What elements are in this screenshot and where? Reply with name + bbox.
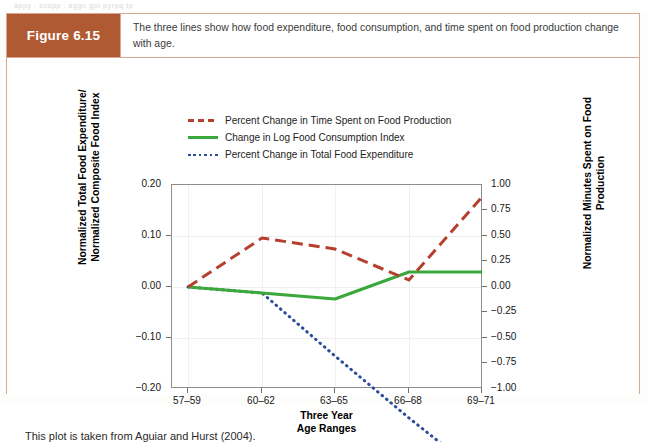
- scan-artifact-text: appy . suspp . aggn gpt pyrpq tp: [0, 0, 648, 11]
- figure-card: Figure 6.15 The three lines show how foo…: [6, 13, 640, 394]
- xtick-label-2: 63–65: [302, 395, 366, 406]
- y-axis-title-right-line2: Production: [594, 68, 607, 298]
- legend-swatch-solid-green-icon: [188, 132, 218, 143]
- figure-caption: The three lines show how food expenditur…: [120, 14, 639, 57]
- xtick-label-3: 66–68: [376, 395, 440, 406]
- ytick-label-right-0: 1.00: [491, 178, 531, 189]
- y-axis-title-left: Normalized Total Food Expenditure/ Norma…: [76, 57, 102, 297]
- ytick-label-left-3: −0.10: [115, 331, 161, 342]
- y-axis-title-right: Normalized Minutes Spent on Food Product…: [581, 68, 607, 298]
- ytick-label-left-0: 0.20: [115, 178, 161, 189]
- legend-label-consumption: Change in Log Food Consumption Index: [225, 132, 405, 143]
- ytick-label-left-2: 0.00: [115, 280, 161, 291]
- y-axis-title-right-line1: Normalized Minutes Spent on Food: [581, 68, 594, 298]
- legend-item-time-spent: Percent Change in Time Spent on Food Pro…: [188, 113, 451, 128]
- series-lines: [172, 185, 483, 389]
- chart-container: Percent Change in Time Spent on Food Pro…: [7, 58, 639, 394]
- figure-header: Figure 6.15 The three lines show how foo…: [7, 14, 639, 58]
- legend-swatch-dotted-blue-icon: [188, 149, 218, 160]
- ytick-label-left-1: 0.10: [115, 229, 161, 240]
- series-line-consumption: [188, 272, 482, 299]
- ytick-label-right-8: −1.00: [491, 382, 531, 393]
- chart-legend: Percent Change in Time Spent on Food Pro…: [188, 113, 451, 164]
- legend-label-expenditure: Percent Change in Total Food Expenditure: [225, 149, 413, 160]
- xtick-label-4: 69–71: [449, 395, 513, 406]
- ytick-label-right-6: −0.50: [491, 331, 531, 342]
- y-axis-title-left-line2: Normalized Composite Food Index: [89, 57, 102, 297]
- legend-item-expenditure: Percent Change in Total Food Expenditure: [188, 147, 451, 162]
- plot-area: [171, 184, 482, 388]
- xtick-label-1: 60–62: [229, 395, 293, 406]
- figure-number-tag: Figure 6.15: [7, 14, 120, 57]
- y-axis-title-left-line1: Normalized Total Food Expenditure/: [76, 57, 89, 297]
- ytick-label-right-5: −0.25: [491, 305, 531, 316]
- scan-artifact-strip: appy . suspp . aggn gpt pyrpq tp: [0, 0, 648, 11]
- x-axis-title-line1: Three Year: [171, 410, 482, 423]
- ytick-label-right-7: −0.75: [491, 356, 531, 367]
- figure-source-note: This plot is taken from Aguiar and Hurst…: [25, 430, 256, 442]
- legend-label-time-spent: Percent Change in Time Spent on Food Pro…: [225, 115, 451, 126]
- ytick-label-right-2: 0.50: [491, 229, 531, 240]
- xtick-label-0: 57–59: [155, 395, 219, 406]
- ytick-label-right-1: 0.75: [491, 203, 531, 214]
- legend-item-consumption: Change in Log Food Consumption Index: [188, 130, 451, 145]
- ytick-label-right-3: 0.25: [491, 254, 531, 265]
- legend-swatch-dashed-red-icon: [188, 115, 218, 126]
- ytick-label-right-4: 0.00: [491, 280, 531, 291]
- ytick-label-left-4: −0.20: [115, 382, 161, 393]
